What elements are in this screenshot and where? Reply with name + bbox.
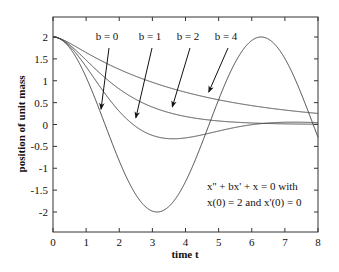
annotation-line-1: x'' + bx' + x = 0 with (207, 180, 298, 192)
x-tick-label: 6 (249, 236, 255, 248)
x-tick-label: 4 (183, 236, 189, 248)
y-tick-label: 0 (43, 119, 49, 131)
y-tick-label: 0.5 (34, 97, 48, 109)
series-arrow (209, 48, 228, 92)
y-tick-label: 1 (43, 75, 49, 87)
y-tick-label: 1.5 (34, 53, 48, 65)
x-tick-label: 2 (117, 236, 123, 248)
y-tick-label: -1 (39, 162, 48, 174)
series-arrow (172, 48, 190, 107)
x-tick-label: 1 (83, 236, 89, 248)
y-tick-label: -2 (39, 206, 48, 218)
y-axis-label: position of unit mass (15, 75, 27, 173)
x-axis-label: time t (171, 248, 199, 260)
series-arrow (101, 48, 109, 109)
y-tick-label: -1.5 (31, 184, 49, 196)
annotation-line-2: x(0) = 2 and x'(0) = 0 (207, 196, 302, 209)
series-label: b = 2 (177, 30, 200, 42)
curve-b2 (53, 37, 318, 124)
series-label: b = 1 (139, 30, 162, 42)
x-tick-label: 5 (216, 236, 222, 248)
chart: 012345678 21.510.50-0.5-1-1.5-2 b = 0b =… (0, 0, 339, 272)
y-tick-label: 2 (43, 31, 49, 43)
series-label: b = 4 (215, 30, 238, 42)
series-arrow (136, 48, 152, 118)
series-label: b = 0 (96, 30, 119, 42)
x-tick-label: 8 (315, 236, 321, 248)
y-tick-label: -0.5 (31, 140, 49, 152)
x-tick-label: 3 (150, 236, 156, 248)
x-tick-label: 7 (282, 236, 288, 248)
x-tick-label: 0 (50, 236, 56, 248)
